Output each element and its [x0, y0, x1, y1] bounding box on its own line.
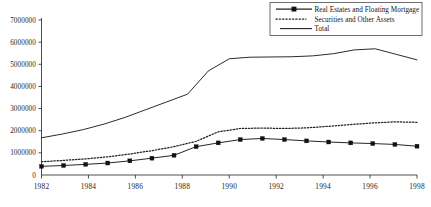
data-point-marker [260, 136, 264, 140]
series-real-estates-line [42, 138, 418, 166]
legend-item-label: Total [315, 25, 330, 33]
data-point-marker [305, 139, 309, 143]
series-layer [40, 49, 420, 169]
series-securities-line [42, 122, 418, 162]
data-point-marker [128, 159, 132, 163]
x-tick-label: 1994 [315, 182, 331, 191]
y-tick-label: 0 [32, 172, 36, 180]
legend-marker-square-icon [292, 7, 296, 11]
data-point-marker [393, 142, 397, 146]
data-point-marker [40, 164, 44, 168]
data-point-marker [327, 140, 331, 144]
x-tick-label: 1990 [221, 182, 237, 191]
y-tick-label: 7000000 [10, 17, 36, 25]
y-tick-label: 2000000 [10, 127, 36, 135]
data-point-marker [172, 153, 176, 157]
legend-item-label: Securities and Other Assets [315, 16, 395, 24]
x-tick-label: 1984 [81, 182, 97, 191]
x-tick-label: 1998 [409, 182, 425, 191]
data-point-marker [194, 145, 198, 149]
data-point-marker [84, 162, 88, 166]
x-tick-label: 1982 [34, 182, 50, 191]
data-point-marker [238, 138, 242, 142]
data-point-marker [282, 138, 286, 142]
y-tick-label: 6000000 [10, 39, 36, 47]
data-point-marker [371, 142, 375, 146]
data-point-marker [106, 161, 110, 165]
data-point-marker [62, 163, 66, 167]
data-point-marker [349, 141, 353, 145]
data-point-marker [415, 144, 419, 148]
series-total-line [42, 49, 418, 138]
y-axis: 0100000020000003000000400000050000006000… [10, 17, 41, 180]
x-tick-label: 1986 [128, 182, 144, 191]
chart-container: 0100000020000003000000400000050000006000… [0, 0, 431, 207]
x-tick-label: 1988 [175, 182, 191, 191]
chart-legend: Real Estates and Floating MortgageSecuri… [270, 3, 422, 36]
x-tick-label: 1996 [362, 182, 378, 191]
line-chart: 0100000020000003000000400000050000006000… [0, 0, 431, 207]
y-tick-label: 3000000 [10, 105, 36, 113]
x-tick-label: 1992 [268, 182, 284, 191]
x-axis: 198219841986198819901992199419961998 [34, 175, 425, 191]
y-tick-label: 1000000 [10, 149, 36, 157]
legend-item-label: Real Estates and Floating Mortgage [315, 6, 420, 14]
data-point-marker [216, 141, 220, 145]
y-tick-label: 5000000 [10, 61, 36, 69]
data-point-marker [150, 156, 154, 160]
y-tick-label: 4000000 [10, 83, 36, 91]
